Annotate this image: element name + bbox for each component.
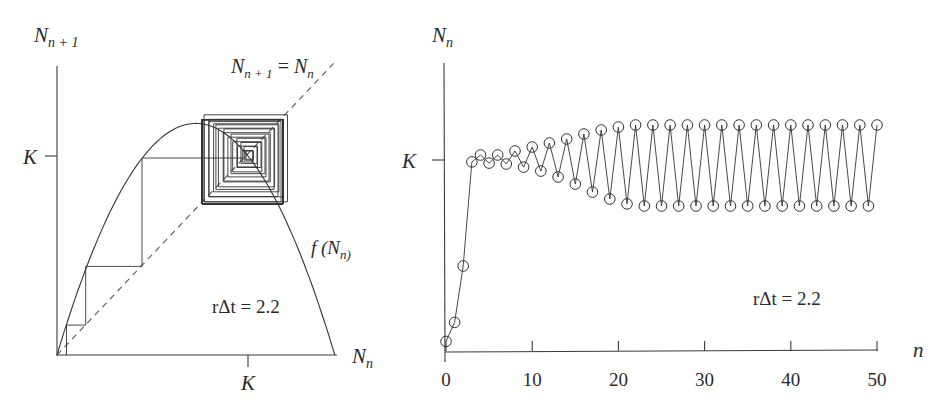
- identity-line: [57, 63, 334, 355]
- x-tick-label: 30: [695, 369, 714, 390]
- y-axis: [444, 63, 445, 362]
- x-ticks: 01020304050: [441, 341, 886, 390]
- y-tick-label-k: K: [401, 149, 417, 173]
- x-tick-label: 10: [523, 369, 542, 390]
- x-tick-label: 40: [781, 369, 800, 390]
- timeseries-markers: [441, 120, 883, 347]
- x-tick-label: 0: [441, 369, 451, 390]
- parameter-label-right: rΔt = 2.2: [753, 288, 821, 309]
- timeseries-panel: Nn K 01020304050 n rΔt = 2.2: [401, 23, 924, 390]
- figure: Nn + 1 K K Nn Nn + 1 = Nn f (Nn) rΔt = 2…: [0, 0, 948, 414]
- x-tick-label: 20: [609, 369, 628, 390]
- x-axis-label: n: [913, 338, 924, 362]
- x-axis: [445, 350, 878, 352]
- identity-line-label: Nn + 1 = Nn: [230, 55, 314, 81]
- cobweb-panel: Nn + 1 K K Nn Nn + 1 = Nn f (Nn) rΔt = 2…: [22, 23, 373, 395]
- map-curve-label: f (Nn): [311, 237, 351, 262]
- x-tick-label-k: K: [240, 371, 256, 395]
- parameter-label-left: rΔt = 2.2: [212, 296, 280, 317]
- y-axis-label: Nn: [431, 23, 453, 50]
- x-tick-label: 50: [868, 369, 887, 390]
- y-tick-label-k: K: [22, 145, 38, 169]
- x-axis-label: Nn: [351, 344, 373, 371]
- y-axis-label: Nn + 1: [33, 23, 78, 50]
